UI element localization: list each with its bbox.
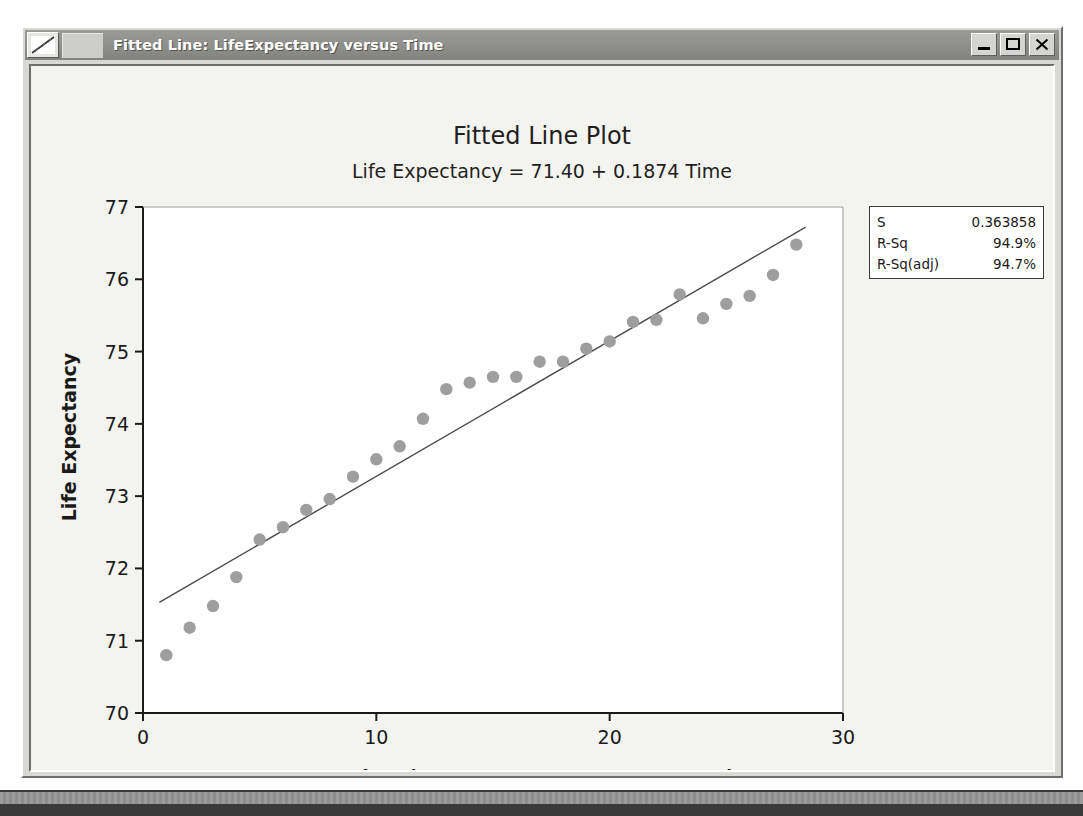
- x-tick-label: 20: [598, 726, 622, 748]
- y-tick-label: 70: [105, 702, 129, 724]
- screen: Fitted Line: LifeExpectancy versus Time: [0, 0, 1083, 816]
- data-point: [650, 314, 662, 326]
- data-point: [370, 453, 382, 465]
- window-controls: [971, 33, 1055, 56]
- y-tick-label: 72: [105, 557, 129, 579]
- data-point: [417, 413, 429, 425]
- maximize-button[interactable]: [1000, 33, 1026, 56]
- y-tick-label: 77: [105, 196, 129, 218]
- stats-value-rsqadj: 94.7%: [993, 254, 1036, 275]
- y-tick-label: 74: [105, 413, 129, 435]
- data-point: [393, 440, 405, 452]
- data-point: [230, 571, 242, 583]
- data-point: [183, 622, 195, 634]
- data-point: [743, 290, 755, 302]
- data-point: [673, 288, 685, 300]
- line-plot-icon: [27, 32, 59, 58]
- minimize-icon: [978, 47, 990, 50]
- data-point: [347, 470, 359, 482]
- x-tick-label: 30: [831, 726, 855, 748]
- window-titlebar[interactable]: Fitted Line: LifeExpectancy versus Time: [25, 30, 1059, 60]
- close-icon: [1030, 34, 1054, 55]
- data-point: [323, 493, 335, 505]
- data-point: [487, 371, 499, 383]
- data-point: [790, 238, 802, 250]
- stats-value-rsq: 94.9%: [993, 233, 1036, 254]
- data-point: [557, 355, 569, 367]
- stats-box: S 0.363858 R-Sq 94.9% R-Sq(adj) 94.7%: [869, 206, 1044, 279]
- window-title: Fitted Line: LifeExpectancy versus Time: [113, 37, 444, 53]
- data-point: [627, 316, 639, 328]
- close-button[interactable]: [1029, 33, 1055, 56]
- desktop-taskbar[interactable]: [0, 790, 1083, 816]
- data-point: [160, 649, 172, 661]
- x-tick-label: 0: [137, 726, 149, 748]
- minimize-button[interactable]: [971, 33, 997, 56]
- y-tick-label: 75: [105, 341, 129, 363]
- y-tick-label: 73: [105, 485, 129, 507]
- y-tick-label: 71: [105, 630, 129, 652]
- data-point: [277, 521, 289, 533]
- y-tick-label: 76: [105, 268, 129, 290]
- axes-layer: 70717273747576770102030: [105, 196, 855, 748]
- data-point: [533, 355, 545, 367]
- taskbar-strip: [0, 792, 1083, 804]
- plot-canvas: Fitted Line Plot Life Expectancy = 71.40…: [31, 66, 1053, 770]
- data-point: [767, 269, 779, 281]
- stats-row-s: S 0.363858: [877, 212, 1036, 233]
- stats-label-s: S: [877, 212, 886, 233]
- data-point: [207, 600, 219, 612]
- stats-value-s: 0.363858: [972, 212, 1036, 233]
- data-point: [440, 383, 452, 395]
- stats-label-rsq: R-Sq: [877, 233, 908, 254]
- data-point: [697, 312, 709, 324]
- titlebar-spacer: [62, 33, 103, 58]
- scatter-plot: 70717273747576770102030: [31, 66, 1053, 770]
- stats-row-rsqadj: R-Sq(adj) 94.7%: [877, 254, 1036, 275]
- maximize-icon: [1006, 38, 1020, 50]
- line-plot-icon-glyph: [31, 36, 55, 54]
- stats-row-rsq: R-Sq 94.9%: [877, 233, 1036, 254]
- data-point: [300, 504, 312, 516]
- minitab-graph-window: Fitted Line: LifeExpectancy versus Time: [21, 26, 1063, 778]
- data-point: [603, 335, 615, 347]
- stats-label-rsqadj: R-Sq(adj): [877, 254, 939, 275]
- data-point: [510, 371, 522, 383]
- data-point: [580, 342, 592, 354]
- graph-client-area: Fitted Line Plot Life Expectancy = 71.40…: [29, 64, 1055, 772]
- data-point: [463, 376, 475, 388]
- x-tick-label: 10: [364, 726, 388, 748]
- data-point: [253, 533, 265, 545]
- data-point: [720, 298, 732, 310]
